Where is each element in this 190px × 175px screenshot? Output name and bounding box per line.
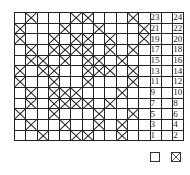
empty-cell [37,77,48,88]
crossed-cell [37,66,48,77]
crossed-cell [26,55,37,66]
empty-cell [127,98,138,109]
empty-cell [105,87,116,98]
empty-cell [26,77,37,88]
chart-row: 1718 [15,45,184,56]
empty-cell [15,130,26,141]
chart-row: 1314 [15,66,184,77]
spacer-cell [161,45,172,56]
empty-cell [139,66,150,77]
chart-row: 34 [15,119,184,130]
crossed-cell [94,119,105,130]
empty-cell [94,34,105,45]
empty-cell [48,13,59,24]
empty-cell [37,87,48,98]
row-number-left: 15 [150,55,161,66]
crossed-cell [82,45,93,56]
crossed-cell [139,34,150,45]
crossed-cell [60,23,71,34]
empty-cell [71,77,82,88]
empty-cell [94,45,105,56]
empty-cell [26,34,37,45]
crossed-cell [105,98,116,109]
crossed-cell [15,66,26,77]
crossed-cell [105,34,116,45]
crossed-cell [37,55,48,66]
row-number-right: 20 [173,34,184,45]
crossed-cell [48,109,59,120]
empty-cell [116,77,127,88]
knitting-chart-grid: 232421221920171815161314111291078563412 [14,12,184,141]
empty-cell [139,45,150,56]
legend-empty-square-icon [150,152,160,162]
chart-row: 910 [15,87,184,98]
empty-cell [116,23,127,34]
crossed-cell [26,87,37,98]
crossed-cell [26,98,37,109]
empty-cell [139,130,150,141]
empty-cell [139,87,150,98]
crossed-cell [139,23,150,34]
row-number-right: 8 [173,98,184,109]
empty-cell [15,87,26,98]
crossed-cell [82,55,93,66]
chart-row: 1112 [15,77,184,88]
empty-cell [71,119,82,130]
crossed-cell [82,98,93,109]
crossed-cell [82,130,93,141]
crossed-cell [116,130,127,141]
empty-cell [60,130,71,141]
empty-cell [105,119,116,130]
crossed-cell [127,13,138,24]
empty-cell [94,87,105,98]
empty-cell [127,55,138,66]
crossed-cell [82,13,93,24]
empty-cell [127,87,138,98]
empty-cell [37,13,48,24]
empty-cell [127,130,138,141]
empty-cell [37,98,48,109]
empty-cell [26,66,37,77]
empty-cell [71,109,82,120]
empty-cell [94,130,105,141]
crossed-cell [15,77,26,88]
crossed-cell [37,130,48,141]
row-number-left: 17 [150,45,161,56]
row-number-right: 10 [173,87,184,98]
row-number-left: 3 [150,119,161,130]
crossed-cell [60,119,71,130]
empty-cell [139,77,150,88]
crossed-cell [60,55,71,66]
crossed-cell [127,45,138,56]
crossed-cell [71,87,82,98]
empty-cell [60,77,71,88]
row-number-left: 23 [150,13,161,24]
empty-cell [139,55,150,66]
crossed-cell [94,55,105,66]
empty-cell [26,23,37,34]
empty-cell [60,13,71,24]
empty-cell [71,66,82,77]
row-number-left: 19 [150,34,161,45]
row-number-left: 7 [150,98,161,109]
crossed-cell [94,66,105,77]
crossed-cell [71,34,82,45]
empty-cell [60,109,71,120]
empty-cell [37,119,48,130]
empty-cell [48,23,59,34]
empty-cell [71,55,82,66]
empty-cell [127,119,138,130]
row-number-left: 5 [150,109,161,120]
crossed-cell [71,45,82,56]
row-number-left: 13 [150,66,161,77]
empty-cell [48,55,59,66]
empty-cell [139,98,150,109]
chart-row: 1516 [15,55,184,66]
empty-cell [94,77,105,88]
crossed-cell [105,45,116,56]
empty-cell [48,119,59,130]
crossed-cell [82,77,93,88]
spacer-cell [161,55,172,66]
spacer-cell [161,98,172,109]
empty-cell [26,109,37,120]
